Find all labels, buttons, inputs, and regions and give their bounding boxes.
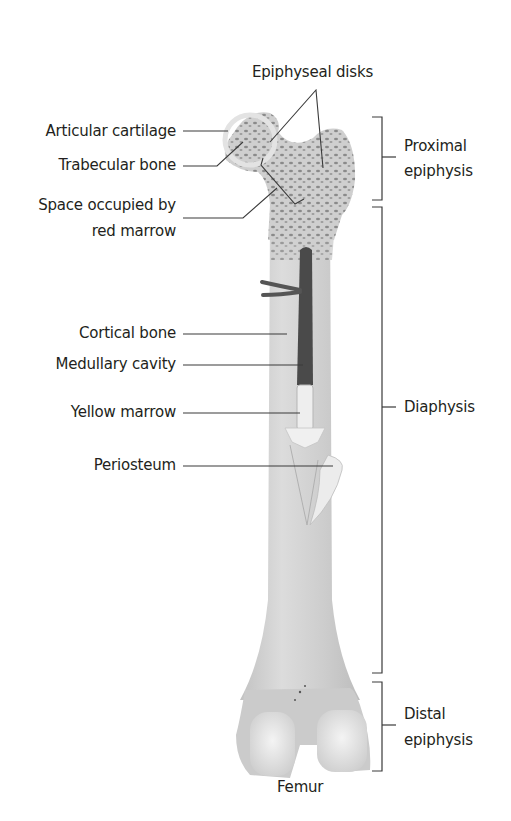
label-space-red-marrow-line1: Space occupied by [38,196,176,214]
label-articular-cartilage: Articular cartilage [46,122,177,140]
label-trabecular-bone: Trabecular bone [58,156,176,174]
label-epiphyseal-disks: Epiphyseal disks [252,63,373,81]
label-space-red-marrow-line2: red marrow [92,222,176,240]
caption-femur: Femur [277,778,323,796]
label-distal-line2: epiphysis [404,731,473,749]
label-proximal-line1: Proximal [404,137,467,155]
region-brackets [372,117,396,771]
label-medullary-cavity: Medullary cavity [55,355,176,373]
proximal-epiphysis-shape [225,112,355,260]
label-diaphysis: Diaphysis [404,398,475,416]
label-proximal-line2: epiphysis [404,162,473,180]
label-distal-line1: Distal [404,705,446,723]
distal-epiphysis-shape [236,685,370,778]
label-periosteum: Periosteum [94,456,176,474]
label-cortical-bone: Cortical bone [79,324,176,342]
label-yellow-marrow: Yellow marrow [71,403,176,421]
